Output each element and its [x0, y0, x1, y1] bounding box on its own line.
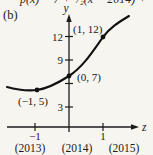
x-axis-arrow-icon [131, 124, 139, 129]
y-tick-label-9: 9 [58, 54, 64, 66]
graph-canvas: y z 12 9 3 −1 1 (2013) (2014) (2015) (1,… [0, 0, 153, 155]
x-tick-label-minus1: −1 [29, 130, 41, 142]
point-minus1-5 [35, 88, 40, 93]
x-axis-label: z [141, 121, 147, 133]
point-label-minus1-5: (−1, 5) [18, 95, 48, 108]
y-tick-label-12: 12 [52, 31, 63, 43]
x-tick-label-1: 1 [100, 130, 106, 142]
point-label-1-12: (1, 12) [73, 23, 103, 36]
point-1-12 [101, 35, 106, 40]
year-label-2014: (2014) [62, 142, 93, 155]
y-axis-arrow-icon [66, 14, 71, 22]
point-label-0-7: (0, 7) [77, 71, 101, 84]
interpolating-curve [7, 16, 129, 90]
y-tick-label-3: 3 [58, 101, 64, 113]
year-label-2015: (2015) [109, 142, 140, 155]
point-0-7 [67, 74, 72, 79]
y-axis-label: y [62, 2, 69, 15]
year-label-2013: (2013) [15, 142, 46, 155]
